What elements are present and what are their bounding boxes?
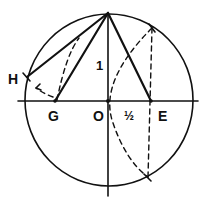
label-E: E — [158, 108, 167, 124]
arrowhead-icon — [36, 84, 41, 90]
label-half: ½ — [124, 109, 134, 123]
segment-top-E — [108, 13, 151, 101]
label-O: O — [93, 108, 104, 124]
point-O-dot — [106, 99, 110, 103]
geometry-diagram: H G O E 1 ½ — [0, 0, 206, 211]
point-E-dot — [149, 99, 153, 103]
label-one: 1 — [96, 58, 103, 73]
label-H: H — [8, 71, 18, 87]
label-G: G — [48, 108, 59, 124]
segment-top-G — [55, 13, 108, 101]
point-G-dot — [53, 99, 57, 103]
dashed-arc-large — [110, 28, 152, 177]
